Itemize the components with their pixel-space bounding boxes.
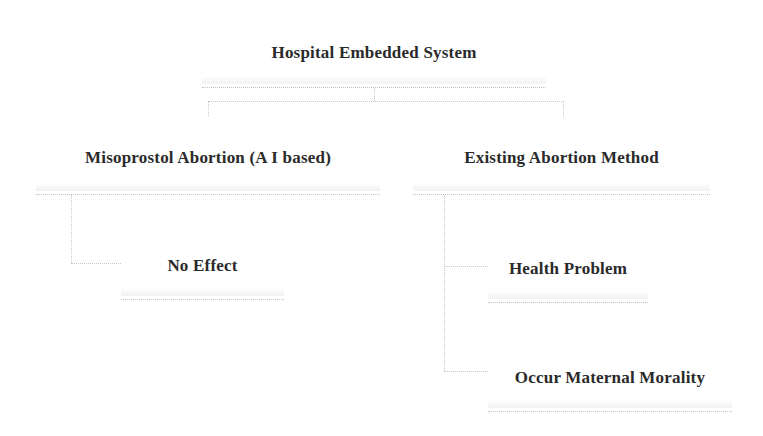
node-label: Existing Abortion Method [464, 148, 659, 168]
connector-to-no-effect [71, 263, 121, 264]
node-label: Health Problem [509, 259, 627, 279]
node-label: Occur Maternal Morality [515, 368, 705, 388]
node-label: Hospital Embedded System [271, 43, 476, 63]
node-occur-maternal-morality: Occur Maternal Morality [488, 344, 732, 412]
connector-root-down [374, 88, 375, 101]
node-hospital-embedded-system: Hospital Embedded System [202, 18, 546, 88]
node-health-problem: Health Problem [488, 235, 648, 303]
node-existing-abortion-method: Existing Abortion Method [413, 122, 710, 195]
node-label: No Effect [167, 256, 237, 276]
connector-root-branch [208, 101, 564, 102]
connector-to-maternal [444, 371, 488, 372]
node-misoprostol-abortion: Misoprostol Abortion (A I based) [36, 122, 380, 195]
connector-to-misoprostol [208, 101, 209, 117]
connector-to-health-problem [444, 266, 488, 267]
connector-misoprostol-down [71, 195, 72, 263]
node-label: Misoprostol Abortion (A I based) [85, 148, 331, 168]
connector-existing-down [444, 195, 445, 371]
connector-to-existing [563, 101, 564, 117]
node-no-effect: No Effect [121, 232, 284, 300]
